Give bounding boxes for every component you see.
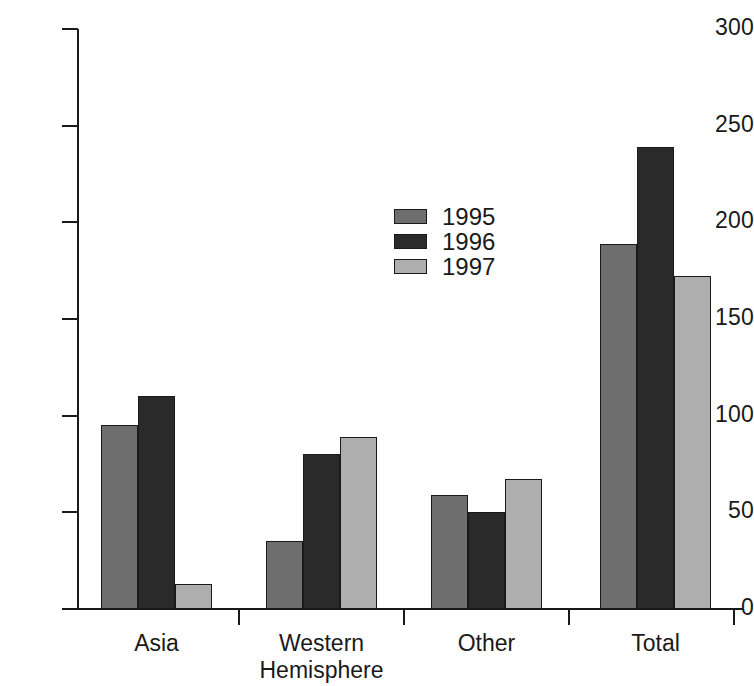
x-axis-tick: [238, 610, 240, 625]
x-axis-tick: [403, 610, 405, 625]
bar-1996-western-hemisphere: [303, 454, 340, 609]
bar-1997-total: [674, 276, 711, 609]
bar-1997-other: [505, 479, 542, 609]
legend-swatch-icon: [394, 259, 427, 274]
bar-1996-total: [637, 147, 674, 609]
bar-1997-asia: [175, 584, 212, 609]
x-axis-tick: [733, 610, 735, 625]
plot-area: [0, 0, 754, 609]
x-axis-tick: [568, 610, 570, 625]
x-axis-tick-label: Total: [546, 630, 754, 657]
bar-1996-asia: [138, 396, 175, 609]
legend-swatch-icon: [394, 234, 427, 249]
bar-1995-total: [600, 244, 637, 609]
bar-1995-western-hemisphere: [266, 541, 303, 609]
legend-item-label: 1996: [442, 229, 495, 255]
bar-1996-other: [468, 512, 505, 609]
legend-item-label: 1995: [442, 204, 495, 230]
bar-1995-other: [431, 495, 468, 609]
legend-item-label: 1997: [442, 254, 495, 280]
bar-chart: 050100150200250300 AsiaWestern Hemispher…: [0, 0, 754, 686]
bar-1995-asia: [101, 425, 138, 609]
bar-1997-western-hemisphere: [340, 437, 377, 609]
legend-swatch-icon: [394, 209, 427, 224]
